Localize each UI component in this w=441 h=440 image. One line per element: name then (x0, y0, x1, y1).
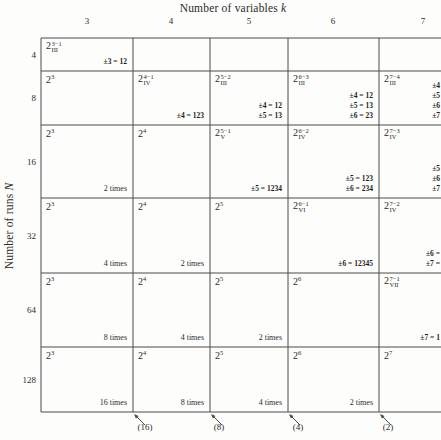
cell-k5-n128: 254 times (211, 348, 287, 411)
design-resolution-subscript: III (390, 80, 397, 86)
generator-equation: ±6 = (426, 249, 440, 259)
generator-equation: ±6 (432, 101, 440, 111)
design-label: 26 (293, 350, 301, 361)
design-resolution-subscript: IV (144, 80, 151, 86)
design-label: 25 (215, 350, 223, 361)
row-header-n-4: 4 (0, 50, 36, 60)
design-superscript: 4 (143, 349, 146, 356)
design-superscript: 3 (51, 127, 54, 134)
generator-equation: ±6 = 12345 (338, 259, 373, 269)
generator-equations: ±6 =±7 = (426, 249, 440, 269)
design-label: 23 (46, 276, 54, 287)
design-base: 2 (215, 127, 220, 138)
design-resolution-subscript: IV (390, 134, 397, 140)
generator-equation: ±7 = 1 (420, 333, 440, 343)
design-label: 24 (138, 128, 146, 139)
design-superscript: 3 (51, 200, 54, 207)
design-label: 25 (215, 201, 223, 212)
design-resolution-subscript: VII (390, 282, 399, 288)
column-header-k-3: 3 (85, 16, 90, 26)
generator-equation: ±5 = 13 (259, 111, 282, 121)
design-base: 2 (384, 73, 389, 84)
replicate-count-label: 4 times (104, 259, 127, 269)
generator-equation: ±6 = 234 (346, 184, 373, 194)
design-exponent-stack: 4−1IV (144, 74, 154, 86)
cell-k7-n8: 27−4III±4±5±6±7 (380, 72, 441, 124)
design-resolution-subscript: IV (390, 207, 397, 213)
cell-k6-n8: 26−3III±4 = 12±5 = 13±6 = 23 (289, 72, 378, 124)
generator-equations: ±5±6±7 (432, 164, 440, 194)
cell-k7-n64: 27−1VII±7 = 1 (380, 274, 441, 346)
design-resolution-subscript: VI (299, 207, 306, 213)
cell-k3-n64: 238 times (42, 274, 132, 346)
design-resolution-subscript: III (52, 47, 59, 53)
footer-arrow-label: (8) (214, 422, 225, 432)
design-label: 25−1V (215, 128, 231, 143)
design-label: 24 (138, 276, 146, 287)
design-resolution-subscript: IV (299, 134, 306, 140)
design-label: 25 (215, 276, 223, 287)
generator-equations: ±6 = 12345 (338, 259, 373, 269)
column-header-k-6: 6 (331, 16, 336, 26)
design-label: 26−1VI (293, 201, 309, 216)
cell-k7-n16: 27−3IV±5±6±7 (380, 126, 441, 197)
replicate-count-label: 8 times (181, 398, 204, 408)
design-label: 27−4III (384, 74, 400, 89)
cell-k3-n16: 232 times (42, 126, 132, 197)
cell-k4-n32: 242 times (134, 199, 209, 272)
design-label: 23 (46, 128, 54, 139)
generator-equations: ±4 = 123 (177, 111, 204, 121)
cell-k3-n4: 23−1III±3 = 12 (42, 39, 132, 70)
cell-k5-n8: 25−2III±4 = 12±5 = 13 (211, 72, 287, 124)
replicate-count-label: 2 times (104, 184, 127, 194)
design-base: 2 (215, 73, 220, 84)
design-superscript: 4 (143, 127, 146, 134)
design-superscript: 6 (298, 349, 301, 356)
design-superscript: 4 (143, 200, 146, 207)
cell-k5-n16: 25−1V±5 = 1234 (211, 126, 287, 197)
design-exponent-stack: 7−4III (390, 74, 400, 86)
replicate-count-label: 4 times (259, 398, 282, 408)
design-base: 2 (293, 73, 298, 84)
design-exponent-stack: 3−1III (52, 41, 62, 53)
row-header-n-128: 128 (0, 375, 36, 385)
generator-equation: ±4 = 123 (177, 111, 204, 121)
generator-equation: ±5 (432, 164, 440, 174)
design-label: 26 (293, 276, 301, 287)
cell-k6-n32: 26−1VI±6 = 12345 (289, 199, 378, 272)
design-label: 26−3III (293, 74, 309, 89)
design-resolution-subscript: III (221, 80, 228, 86)
generator-equation: ±7 = (426, 259, 440, 269)
design-superscript: 3 (51, 73, 54, 80)
design-exponent-stack: 6−2IV (299, 128, 309, 140)
design-label: 27 (384, 350, 392, 361)
design-base: 2 (293, 200, 298, 211)
generator-equation: ±5 = 123 (346, 174, 373, 184)
generator-equation: ±4 = 12 (350, 91, 373, 101)
replicate-count-label: 8 times (104, 333, 127, 343)
design-exponent-stack: 5−2III (221, 74, 231, 86)
design-label: 25−2III (215, 74, 231, 89)
generator-equation: ±5 = 13 (350, 101, 373, 111)
cell-k4-n64: 244 times (134, 274, 209, 346)
design-superscript: 5 (220, 200, 223, 207)
cell-k7-n32: 27−2IV±6 =±7 = (380, 199, 441, 272)
replicate-count-label: 16 times (100, 398, 127, 408)
fractional-factorial-design-table: Number of variables k Number of runs N 3… (0, 0, 441, 440)
design-resolution-subscript: V (221, 134, 226, 140)
generator-equation: ±5 = 1234 (251, 184, 282, 194)
cell-k5-n32: 25 (211, 199, 287, 272)
design-superscript: 3 (51, 275, 54, 282)
design-superscript: 3 (51, 349, 54, 356)
row-header-n-32: 32 (0, 231, 36, 241)
generator-equation: ±5 (432, 91, 440, 101)
design-superscript: 7 (389, 349, 392, 356)
column-header-k-4: 4 (169, 16, 174, 26)
design-superscript: 4 (143, 275, 146, 282)
row-header-n-64: 64 (0, 305, 36, 315)
design-label: 27−2IV (384, 201, 400, 216)
design-label: 27−3IV (384, 128, 400, 143)
design-exponent-stack: 6−3III (299, 74, 309, 86)
generator-equation: ±3 = 12 (104, 57, 127, 67)
footer-arrow-label: (2) (383, 422, 394, 432)
